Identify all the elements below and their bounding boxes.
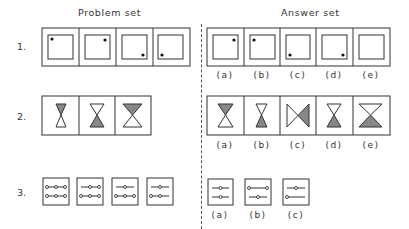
row-3-problem-cell-2 (77, 178, 103, 205)
row-1-problem-cell-2 (85, 35, 110, 59)
row-2-answer-b[interactable] (256, 104, 267, 127)
row-2-answer-a[interactable] (218, 104, 233, 127)
row-2-answer-e[interactable] (359, 104, 382, 127)
row-2-answer-d[interactable] (327, 104, 341, 127)
row-2-label-b: (b) (244, 140, 280, 150)
row-2-label-a: (a) (207, 140, 243, 150)
row-1-label-a: (a) (207, 70, 243, 80)
dot-top-left (252, 38, 255, 41)
row-3-label-c: (c) (278, 210, 314, 220)
dot-bottom-right (341, 53, 344, 56)
row-1-answer-strip (207, 28, 390, 66)
row-1-answer-e[interactable] (359, 35, 384, 59)
row-3-answer-strip (208, 179, 309, 205)
row-2-answer-strip (207, 96, 390, 135)
row-3-label-b: (b) (240, 210, 276, 220)
row-1-answer-b[interactable] (250, 35, 275, 59)
figure-canvas (0, 0, 409, 229)
row-2-label-e: (e) (353, 140, 389, 150)
row-1-problem-cell-4 (158, 35, 183, 59)
row-3-problem-cell-4 (147, 178, 173, 205)
row-1-problem-cell-1 (48, 35, 73, 59)
dot-top-right (232, 38, 235, 41)
row-3-label-a: (a) (202, 210, 238, 220)
row-3-answer-b[interactable] (245, 179, 271, 205)
dot-bottom-left (160, 53, 163, 56)
row-3-problem-cell-1 (43, 178, 69, 205)
row-1-problem-cell-3 (122, 35, 147, 59)
row-1-answer-a[interactable] (213, 35, 238, 59)
row-1-answer-d[interactable] (322, 35, 347, 59)
row-2-answer-c[interactable] (287, 104, 309, 127)
row-3-answer-c[interactable] (283, 179, 309, 205)
row-3-problem-strip (43, 178, 173, 205)
row-2-label-c: (c) (280, 140, 316, 150)
row-3-answer-a[interactable] (208, 179, 233, 205)
row-1-label-e: (e) (353, 70, 389, 80)
hourglass-small-top-shaded (56, 104, 66, 127)
dot-bottom-left (288, 53, 291, 56)
row-1-label-d: (d) (316, 70, 352, 80)
dot-top-left (50, 37, 53, 40)
row-2-label-d: (d) (316, 140, 352, 150)
row-1-label-c: (c) (280, 70, 316, 80)
row-1-label-b: (b) (244, 70, 280, 80)
row-3-problem-cell-3 (112, 178, 138, 205)
dot-top-right (103, 38, 106, 41)
row-1-answer-c[interactable] (286, 35, 310, 59)
row-2-problem-strip (42, 96, 151, 135)
hourglass-large-top-shaded (123, 104, 142, 127)
dot-bottom-right (141, 53, 144, 56)
hourglass-medium-bottom-shaded (90, 104, 104, 127)
row-1-problem-strip (42, 28, 190, 66)
